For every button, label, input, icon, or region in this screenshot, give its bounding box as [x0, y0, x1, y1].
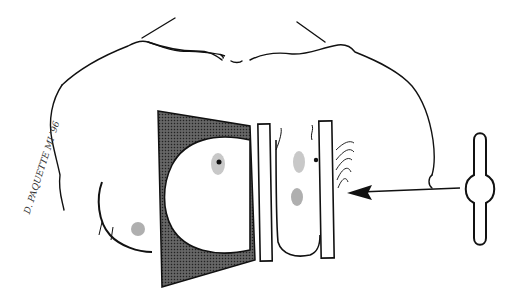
hair-strokes [336, 142, 354, 188]
xray-beam-arrow [347, 185, 460, 200]
xray-source-icon [466, 133, 495, 245]
left-breast [99, 182, 152, 252]
image-detector [158, 111, 255, 287]
breast-nipple [217, 160, 222, 165]
compressed-nipple [314, 158, 318, 162]
compression-paddle-right [319, 121, 334, 258]
left-nipple-areola [131, 222, 145, 236]
compressed-nipple-stipple [291, 188, 303, 206]
compressed-areola-gray [293, 151, 305, 173]
illustration-canvas [0, 0, 515, 301]
compression-paddle-left [258, 124, 272, 261]
